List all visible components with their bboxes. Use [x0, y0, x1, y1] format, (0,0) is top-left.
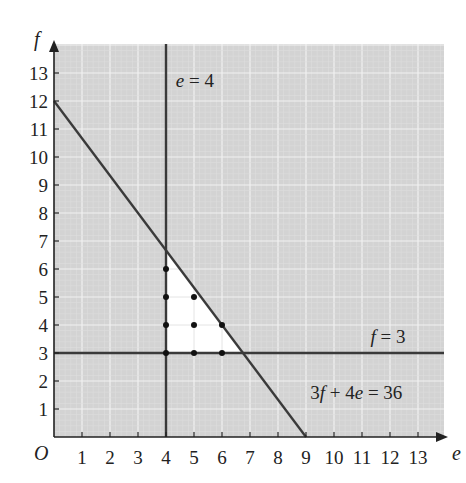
constraint-label: 3f + 4e = 36 — [310, 382, 402, 403]
y-tick-label: 8 — [39, 203, 49, 224]
y-tick-label: 7 — [39, 231, 49, 252]
x-tick-label: 4 — [161, 447, 171, 468]
constraint-label: e = 4 — [176, 70, 215, 91]
x-tick-label: 2 — [105, 447, 115, 468]
x-tick-label: 7 — [245, 447, 255, 468]
integer-point — [191, 350, 197, 356]
y-tick-label: 4 — [39, 315, 49, 336]
integer-point — [219, 322, 225, 328]
x-tick-label: 8 — [273, 447, 283, 468]
integer-point — [163, 294, 169, 300]
integer-point — [191, 322, 197, 328]
x-tick-label: 5 — [189, 447, 199, 468]
x-tick-label: 10 — [325, 447, 344, 468]
integer-point — [163, 266, 169, 272]
x-tick-label: 1 — [77, 447, 87, 468]
integer-point — [191, 294, 197, 300]
x-tick-label: 6 — [217, 447, 227, 468]
integer-point — [163, 322, 169, 328]
x-axis-label: e — [452, 442, 461, 464]
linear-programming-chart: 1234567891011121312345678910111213Oefe =… — [0, 0, 466, 483]
x-tick-label: 9 — [301, 447, 311, 468]
y-tick-label: 6 — [39, 259, 49, 280]
integer-point — [219, 350, 225, 356]
y-tick-label: 9 — [39, 175, 49, 196]
y-tick-label: 10 — [29, 147, 48, 168]
y-axis-label: f — [34, 28, 42, 51]
x-tick-label: 12 — [381, 447, 400, 468]
y-tick-label: 2 — [39, 371, 49, 392]
y-tick-label: 12 — [29, 91, 48, 112]
y-tick-label: 13 — [29, 63, 48, 84]
y-tick-label: 11 — [30, 119, 48, 140]
y-tick-label: 5 — [39, 287, 49, 308]
y-tick-label: 3 — [39, 343, 49, 364]
constraint-label: f = 3 — [370, 326, 405, 347]
x-tick-label: 3 — [133, 447, 143, 468]
x-tick-label: 13 — [409, 447, 428, 468]
y-tick-label: 1 — [39, 399, 49, 420]
origin-label: O — [34, 442, 48, 464]
integer-point — [163, 350, 169, 356]
x-tick-label: 11 — [353, 447, 371, 468]
